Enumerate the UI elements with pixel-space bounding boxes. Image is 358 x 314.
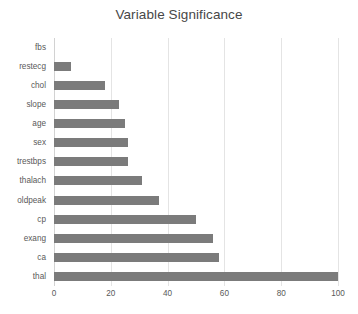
bar-slope [54, 100, 119, 109]
bar-row [54, 38, 338, 57]
y-axis-label-thal: thal [0, 267, 50, 286]
bar-row [54, 152, 338, 171]
y-axis-label-ca: ca [0, 248, 50, 267]
y-axis-label-cp: cp [0, 210, 50, 229]
bar-row [54, 95, 338, 114]
y-axis-label-sex: sex [0, 133, 50, 152]
gridline-100 [338, 38, 339, 286]
bar-row [54, 57, 338, 76]
bar-row [54, 229, 338, 248]
y-axis-label-thalach: thalach [0, 171, 50, 190]
bar-thalach [54, 176, 142, 185]
chart-screenshot: Variable Significance fbsrestecgcholslop… [0, 0, 358, 314]
bar-age [54, 119, 125, 128]
bar-row [54, 191, 338, 210]
bar-chol [54, 81, 105, 90]
y-axis-category-labels: fbsrestecgcholslopeagesextrestbpsthalach… [0, 38, 50, 286]
y-axis-label-chol: chol [0, 76, 50, 95]
y-axis-label-slope: slope [0, 95, 50, 114]
bar-exang [54, 234, 213, 243]
x-axis-tick-labels: 020406080100 [54, 289, 338, 303]
bar-row [54, 133, 338, 152]
bar-trestbps [54, 157, 128, 166]
bar-row [54, 267, 338, 286]
bar-cp [54, 215, 196, 224]
bar-oldpeak [54, 196, 159, 205]
bar-thal [54, 272, 338, 281]
bar-row [54, 76, 338, 95]
bar-ca [54, 253, 219, 262]
bar-row [54, 171, 338, 190]
x-axis-label-80: 80 [277, 289, 286, 298]
x-axis-label-20: 20 [106, 289, 115, 298]
plot-area [54, 38, 338, 286]
y-axis-label-trestbps: trestbps [0, 152, 50, 171]
bar-row [54, 248, 338, 267]
y-axis-label-oldpeak: oldpeak [0, 191, 50, 210]
x-axis-label-100: 100 [331, 289, 345, 298]
x-axis-label-40: 40 [163, 289, 172, 298]
chart-title: Variable Significance [0, 7, 358, 22]
y-axis-label-fbs: fbs [0, 38, 50, 57]
bar-restecg [54, 62, 71, 71]
x-axis-label-60: 60 [220, 289, 229, 298]
x-axis-label-0: 0 [52, 289, 57, 298]
bar-row [54, 210, 338, 229]
bar-row [54, 114, 338, 133]
y-axis-label-age: age [0, 114, 50, 133]
bar-series [54, 38, 338, 286]
y-axis-label-exang: exang [0, 229, 50, 248]
y-axis-label-restecg: restecg [0, 57, 50, 76]
bar-sex [54, 138, 128, 147]
